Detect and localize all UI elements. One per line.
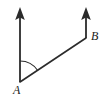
- segment-ab: [20, 38, 86, 82]
- vertex-label-b: B: [91, 30, 98, 42]
- geometry-figure: A B: [0, 0, 107, 101]
- angle-arc-at-a: [20, 61, 38, 70]
- vertex-label-a: A: [13, 84, 20, 96]
